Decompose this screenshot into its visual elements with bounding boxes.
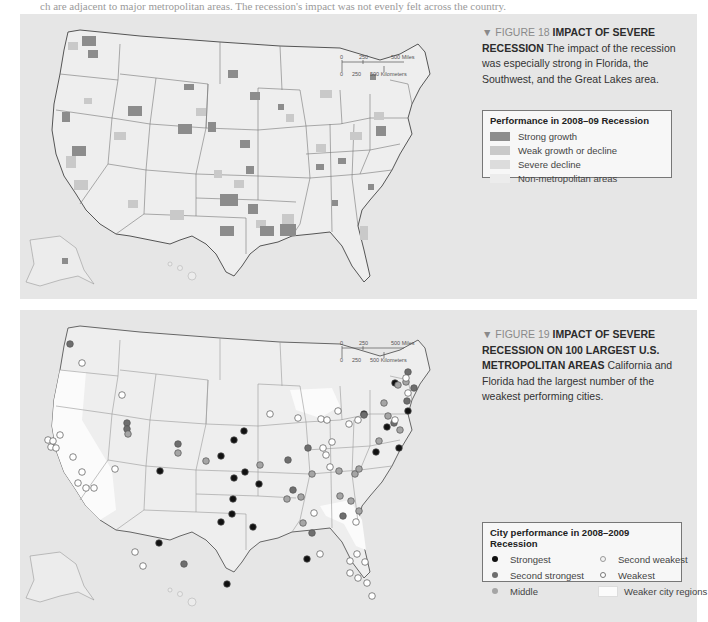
svg-text:500 Miles: 500 Miles	[391, 54, 415, 60]
figure-number: ▼ FIGURE 19	[482, 328, 550, 340]
svg-text:500 Kilometers: 500 Kilometers	[370, 71, 407, 77]
legend-item: Strongest	[490, 552, 598, 566]
legend-item: Second strongest	[490, 568, 598, 582]
honolulu-city	[181, 561, 188, 568]
figure-18-caption: ▼ FIGURE 18 IMPACT OF SEVERE RECESSION T…	[482, 25, 687, 87]
figure-19-legend: City performance in 2008–2009 Recession …	[482, 522, 682, 582]
legend-item: Weaker city regions	[598, 584, 708, 598]
legend-item: Strong growth	[490, 129, 664, 143]
swatch-strong-growth	[490, 132, 510, 141]
svg-text:500 Miles: 500 Miles	[391, 340, 415, 346]
figure-19-panel: 0 250 500 Miles 0 250 500 Kilometers ▼ F…	[20, 310, 697, 622]
legend-item: Severe decline	[490, 157, 664, 171]
dot-second-weakest-icon	[600, 556, 606, 562]
swatch-non-metro	[490, 174, 510, 183]
legend-item: Weakest	[598, 568, 708, 582]
dot-strongest-icon	[492, 556, 498, 562]
svg-text:0: 0	[340, 357, 343, 363]
us-metro-performance-map: 0 250 500 Miles 0 250 500 Kilometers	[20, 14, 480, 299]
figure-number: ▼ FIGURE 18	[482, 26, 550, 38]
hawaii	[168, 588, 196, 606]
figure-18-legend: Performance in 2008–09 Recession Strong …	[482, 110, 672, 178]
svg-text:250: 250	[352, 357, 361, 363]
dot-weakest-icon	[600, 572, 606, 578]
swatch-severe-decline	[490, 160, 510, 169]
svg-text:0: 0	[340, 340, 343, 346]
legend-item: Weak growth or decline	[490, 143, 664, 157]
svg-text:0: 0	[340, 71, 343, 77]
page-top-text: ch are adjacent to major metropolitan ar…	[40, 0, 697, 14]
figure-19-caption: ▼ FIGURE 19 IMPACT OF SEVERE RECESSION O…	[482, 327, 687, 405]
legend-item: Middle	[490, 584, 598, 598]
dot-second-strongest-icon	[492, 572, 498, 578]
alaska	[26, 552, 94, 602]
legend-title: Performance in 2008–09 Recession	[490, 115, 664, 126]
figure-18-panel: 0 250 500 Miles 0 250 500 Kilometers ▼ F…	[20, 14, 697, 299]
alaska	[26, 236, 94, 286]
legend-items: Strongest Second weakest Second stronges…	[490, 552, 674, 598]
svg-text:250: 250	[359, 340, 368, 346]
swatch-weaker-regions	[598, 586, 618, 597]
scale-label: 0	[340, 54, 343, 60]
legend-item: Second weakest	[598, 552, 708, 566]
dot-middle-icon	[492, 588, 498, 594]
legend-title: City performance in 2008–2009 Recession	[490, 527, 674, 549]
svg-text:500 Kilometers: 500 Kilometers	[370, 357, 407, 363]
svg-text:250: 250	[352, 71, 361, 77]
hawaii	[168, 262, 196, 280]
swatch-weak-growth	[490, 146, 510, 155]
us-city-performance-map: 0 250 500 Miles 0 250 500 Kilometers	[20, 310, 480, 622]
svg-text:250: 250	[359, 54, 368, 60]
legend-item: Non-metropolitan areas	[490, 171, 664, 185]
